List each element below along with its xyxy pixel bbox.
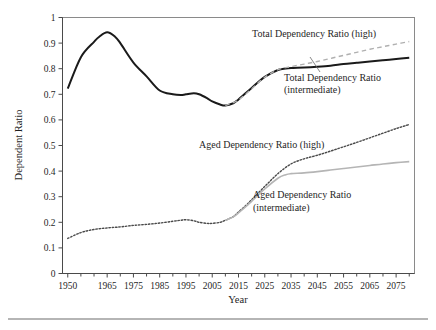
x-tick-label-2065: 2065 <box>360 281 379 291</box>
y-tick-label-0: 0 <box>51 269 56 279</box>
x-tick-label-2015: 2015 <box>229 281 248 291</box>
annotation-aged-intermediate-line1: Aged Dependency Ratio <box>253 189 351 200</box>
annotation-aged-intermediate-line2: (intermediate) <box>253 202 310 214</box>
x-tick-label-1975: 1975 <box>124 281 143 291</box>
figure-container: 00.10.20.30.40.50.60.70.80.91 1950196519… <box>0 0 436 330</box>
y-tick-label-0.2: 0.2 <box>44 218 56 228</box>
y-tick-label-0.1: 0.1 <box>44 243 56 253</box>
y-tick-label-0.3: 0.3 <box>44 192 56 202</box>
y-tick-label-0.5: 0.5 <box>44 141 56 151</box>
x-tick-label-1985: 1985 <box>150 281 169 291</box>
x-tick-label-2055: 2055 <box>334 281 353 291</box>
x-tick-label-2005: 2005 <box>203 281 222 291</box>
y-tick-label-0.9: 0.9 <box>44 39 56 49</box>
annotation-total-intermediate-line2: (intermediate) <box>284 84 341 96</box>
x-tick-label-1995: 1995 <box>176 281 195 291</box>
y-tick-label-1: 1 <box>51 13 56 23</box>
annotation-total-high: Total Dependency Ratio (high) <box>252 28 376 40</box>
x-tick-label-1965: 1965 <box>98 281 117 291</box>
x-tick-label-1950: 1950 <box>58 281 77 291</box>
y-tick-label-0.8: 0.8 <box>44 64 56 74</box>
annotation-aged-high: Aged Dependency Ratio (high) <box>199 139 324 151</box>
y-tick-label-0.4: 0.4 <box>44 167 56 177</box>
y-axis-title: Dependent Ratio <box>13 110 24 181</box>
x-axis-title: Year <box>228 294 248 305</box>
dependency-ratio-line-chart: 00.10.20.30.40.50.60.70.80.91 1950196519… <box>0 0 436 330</box>
annotation-total-intermediate-line1: Total Dependency Ratio <box>284 72 381 83</box>
x-tick-label-2075: 2075 <box>387 281 406 291</box>
x-tick-label-2045: 2045 <box>308 281 327 291</box>
y-tick-label-0.7: 0.7 <box>44 90 56 100</box>
y-tick-label-0.6: 0.6 <box>44 115 56 125</box>
x-tick-label-2035: 2035 <box>282 281 301 291</box>
x-tick-label-2025: 2025 <box>255 281 274 291</box>
